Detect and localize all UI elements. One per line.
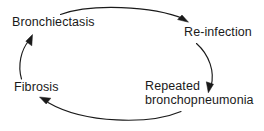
node-label-fibrosis: Fibrosis	[14, 81, 59, 95]
arrow-fibrosis-to-bronchiectasis	[20, 35, 33, 80]
cycle-diagram: Bronchiectasis Re-infection Repeated bro…	[0, 0, 264, 131]
arrow-left-path	[20, 41, 29, 80]
node-label-repeated-bronchopneumonia: Repeated bronchopneumonia	[145, 80, 254, 107]
node-label-repeated-line2: bronchopneumonia	[145, 94, 254, 108]
arrow-top-head	[178, 15, 189, 22]
node-label-reinfection: Re-infection	[184, 26, 252, 40]
node-label-bronchiectasis: Bronchiectasis	[12, 16, 95, 30]
node-label-repeated-line1: Repeated	[145, 80, 254, 94]
